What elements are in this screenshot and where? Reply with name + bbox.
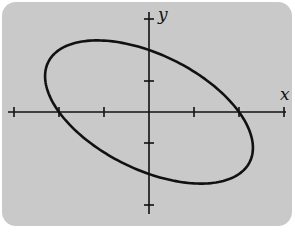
coordinate-plane	[0, 0, 295, 234]
y-axis-label: y	[158, 4, 168, 24]
x-axis-label: x	[280, 84, 290, 104]
